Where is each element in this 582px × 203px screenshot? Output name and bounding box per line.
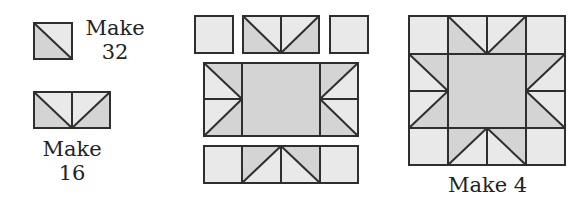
flying-geese-unit [34,92,110,128]
assembly-top-row [195,16,368,53]
hst-quantity-label: Make 32 [80,16,150,64]
flying-geese-quantity-label: Make 16 [37,137,107,185]
label-make: Make [80,16,150,40]
assembly-middle-row [204,63,358,136]
half-square-triangle-unit [34,23,72,59]
label-count: 16 [37,161,107,185]
label-count: 32 [80,40,150,64]
label-make: Make [37,137,107,161]
block-quantity-label: Make 4 [430,173,545,197]
assembly-bottom-row [204,146,358,183]
finished-sawtooth-star-block [409,16,565,165]
